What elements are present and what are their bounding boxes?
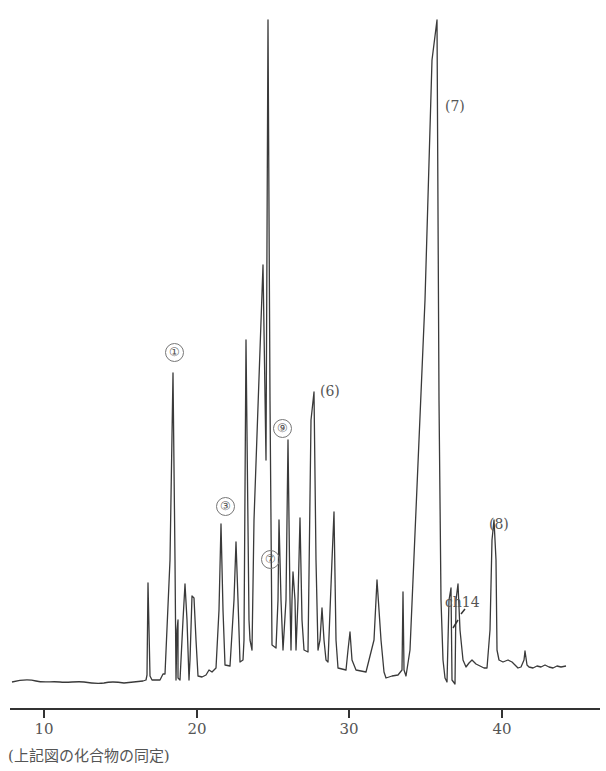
- x-tick-label-40: 40: [492, 720, 511, 738]
- peak-label-9: ⑨: [273, 419, 292, 438]
- peak-label-7: (7): [445, 98, 465, 114]
- circled-3: ③: [216, 497, 235, 516]
- peak-label-1: ①: [165, 343, 184, 362]
- circled-9: ⑨: [273, 419, 292, 438]
- chromatogram-trace: [12, 20, 566, 684]
- x-tick-label-10: 10: [34, 720, 53, 738]
- circled-7: ⑦: [261, 550, 280, 569]
- x-tick-label-30: 30: [339, 720, 358, 738]
- peak-label-7-circled: ⑦: [261, 550, 280, 569]
- peak-label-ch14: ch14: [445, 594, 480, 610]
- circled-1: ①: [165, 343, 184, 362]
- chromatogram-plot: [0, 0, 606, 771]
- peak-label-3: ③: [216, 497, 235, 516]
- x-tick-label-20: 20: [187, 720, 206, 738]
- figure-caption: (上記図の化合物の同定): [8, 744, 170, 765]
- peak-label-6: (6): [320, 383, 340, 399]
- peak-label-8: (8): [489, 516, 509, 532]
